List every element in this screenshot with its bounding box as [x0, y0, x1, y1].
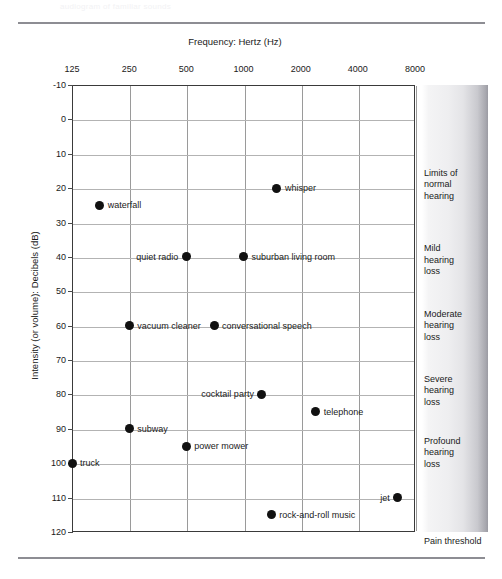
y-tick-label: 0 [42, 114, 66, 124]
y-tick-label: 50 [42, 286, 66, 296]
y-tick-label: 80 [42, 389, 66, 399]
y-tick-mark [68, 291, 73, 292]
data-point-label: quiet radio [136, 252, 178, 262]
severity-band-mild-hearing-loss: Mild hearing loss [424, 243, 454, 278]
y-tick-mark [68, 498, 73, 499]
data-point-label: suburban living room [252, 252, 336, 262]
data-point-label: truck [80, 458, 100, 468]
x-tick-label: 2000 [291, 64, 311, 74]
y-gridline [73, 430, 414, 431]
severity-band-moderate-hearing-loss: Moderate hearing loss [424, 309, 462, 344]
audiogram-plot-area [72, 85, 415, 532]
x-tick-label: 500 [179, 64, 194, 74]
x-tick-label: 4000 [348, 64, 368, 74]
x-axis-title: Frequency: Hertz (Hz) [0, 36, 470, 47]
y-gridline [73, 155, 414, 156]
bottom-divider-rule [18, 557, 485, 559]
data-point-marker [125, 321, 134, 330]
y-tick-label: 10 [42, 149, 66, 159]
y-gridline [73, 361, 414, 362]
data-point-label: conversational speech [222, 321, 312, 331]
data-point-label: waterfall [108, 200, 142, 210]
y-tick-label: 30 [42, 218, 66, 228]
y-tick-mark [68, 429, 73, 430]
data-point-label: subway [137, 424, 168, 434]
y-tick-mark [68, 394, 73, 395]
y-tick-mark [68, 532, 73, 533]
y-tick-label: 100 [42, 458, 66, 468]
data-point-label: power mower [194, 441, 248, 451]
y-tick-mark [68, 85, 73, 86]
y-tick-label: 70 [42, 355, 66, 365]
y-gridline [73, 120, 414, 121]
data-point-label: rock-and-roll music [279, 510, 355, 520]
x-tick-label: 250 [122, 64, 137, 74]
y-tick-mark [68, 326, 73, 327]
pain-threshold-label: Pain threshold [424, 536, 482, 546]
data-point-marker [182, 442, 191, 451]
y-tick-label: -10 [42, 80, 66, 90]
severity-band-limits-of-normal-hearing: Limits of normal hearing [424, 168, 458, 203]
x-tick-label: 125 [64, 64, 79, 74]
y-tick-label: 120 [42, 527, 66, 537]
severity-band-profound-hearing-loss: Profound hearing loss [424, 436, 461, 471]
y-gridline [73, 499, 414, 500]
y-gridline [73, 292, 414, 293]
data-point-label: jet [380, 493, 390, 503]
data-point-marker [68, 459, 77, 468]
top-divider-rule [18, 22, 485, 24]
y-gridline [73, 189, 414, 190]
faint-caption-text: audiogram of familiar sounds [60, 2, 171, 11]
y-tick-mark [68, 223, 73, 224]
y-tick-label: 110 [42, 493, 66, 503]
data-point-marker [267, 510, 276, 519]
y-tick-label: 20 [42, 183, 66, 193]
y-tick-mark [68, 360, 73, 361]
y-axis-title: Intensity (or volume): Decibels (dB) [29, 176, 40, 436]
data-point-label: whisper [285, 183, 316, 193]
data-point-label: vacuum cleaner [137, 321, 201, 331]
data-point-label: cocktail party [201, 389, 254, 399]
data-point-label: telephone [324, 407, 364, 417]
x-tick-label: 8000 [405, 64, 425, 74]
severity-band-severe-hearing-loss: Severe hearing loss [424, 374, 454, 409]
y-gridline [73, 464, 414, 465]
y-tick-label: 60 [42, 321, 66, 331]
y-tick-mark [68, 188, 73, 189]
y-tick-mark [68, 154, 73, 155]
y-tick-label: 90 [42, 424, 66, 434]
data-point-marker [125, 424, 134, 433]
x-gridline [416, 86, 417, 531]
data-point-marker [210, 321, 219, 330]
y-tick-label: 40 [42, 252, 66, 262]
y-tick-mark [68, 257, 73, 258]
y-gridline [73, 224, 414, 225]
x-tick-label: 1000 [233, 64, 253, 74]
y-tick-mark [68, 119, 73, 120]
